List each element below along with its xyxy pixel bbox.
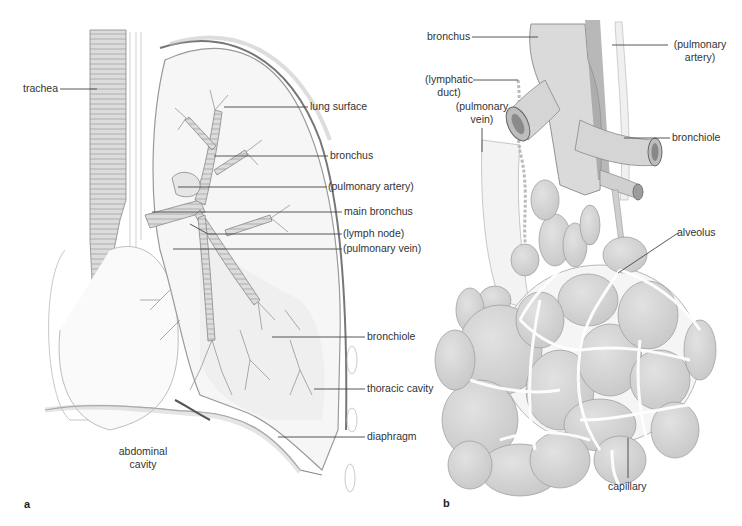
- label-trachea: trachea: [23, 82, 58, 95]
- label-pulmonary-vein-b-line1: (pulmonary: [452, 100, 512, 113]
- label-bronchus-b: bronchus: [427, 30, 470, 43]
- lung-anatomy-figure: trachea lung surface bronchus (pulmonary…: [0, 0, 742, 526]
- label-pulmonary-artery-b: (pulmonary artery): [670, 38, 730, 64]
- label-abdominal-cavity-line2: cavity: [108, 458, 178, 471]
- label-pulmonary-vein-b: (pulmonary vein): [452, 100, 512, 126]
- label-bronchus-a: bronchus: [330, 149, 373, 162]
- label-lung-surface: lung surface: [310, 100, 367, 113]
- label-pulmonary-artery-b-line1: (pulmonary: [670, 38, 730, 51]
- label-lymphatic-duct-line1: (lymphatic: [422, 73, 476, 86]
- label-lymphatic-duct: (lymphatic duct): [422, 73, 476, 99]
- label-pulmonary-vein-b-line2: vein): [452, 113, 512, 126]
- label-bronchiole-a: bronchiole: [367, 330, 415, 343]
- label-pulmonary-vein-a: (pulmonary vein): [343, 242, 421, 255]
- label-pulmonary-artery-a: (pulmonary artery): [328, 180, 414, 193]
- label-alveolus: alveolus: [677, 226, 716, 239]
- label-bronchiole-b: bronchiole: [672, 131, 720, 144]
- panel-b-drawing: [435, 20, 716, 496]
- label-capillary: capillary: [608, 480, 647, 493]
- label-abdominal-cavity-line1: abdominal: [108, 445, 178, 458]
- label-lymphatic-duct-line2: duct): [422, 86, 476, 99]
- label-thoracic-cavity: thoracic cavity: [367, 382, 434, 395]
- label-diaphragm: diaphragm: [367, 430, 417, 443]
- label-main-bronchus: main bronchus: [344, 205, 413, 218]
- label-lymph-node: (lymph node): [343, 227, 404, 240]
- panel-letter-a: a: [24, 498, 30, 510]
- alveolar-sac-cluster: [435, 237, 716, 496]
- panel-letter-b: b: [443, 497, 450, 509]
- label-abdominal-cavity: abdominal cavity: [108, 445, 178, 471]
- label-pulmonary-artery-b-line2: artery): [670, 51, 730, 64]
